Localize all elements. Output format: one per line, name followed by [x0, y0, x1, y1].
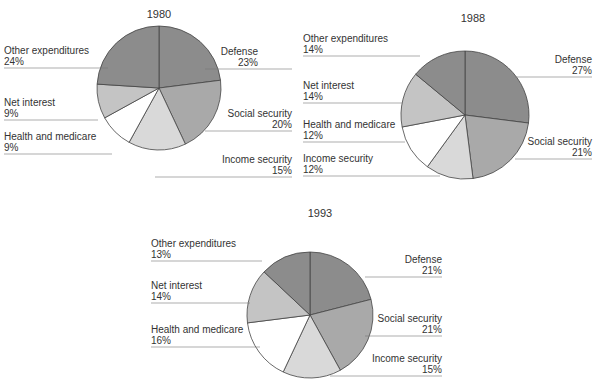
slice-value: 12% [303, 130, 323, 141]
slice-value: 14% [303, 91, 323, 102]
slice-label: Other expenditures [151, 238, 236, 249]
slice-value: 21% [422, 324, 442, 335]
slice-label: Defense [221, 46, 259, 57]
pie-slice [465, 115, 528, 178]
slice-value: 15% [422, 364, 442, 375]
slice-label: Social security [228, 108, 292, 119]
slice-label: Other expenditures [4, 45, 89, 56]
slice-value: 15% [272, 165, 292, 176]
slice-label: Social security [378, 313, 442, 324]
slice-label: Income security [303, 153, 373, 164]
slice-label: Income security [222, 154, 292, 165]
slice-value: 16% [151, 335, 171, 346]
slice-label: Social security [528, 136, 592, 147]
budget-pie-charts: 1980Defense23%Social security20%Income s… [0, 0, 600, 390]
slice-value: 24% [4, 56, 24, 67]
slice-label: Health and medicare [303, 119, 396, 130]
slice-value: 21% [572, 147, 592, 158]
slice-label: Net interest [151, 280, 202, 291]
slice-value: 9% [4, 142, 19, 153]
slice-value: 27% [572, 65, 592, 76]
pie-charts-svg: 1980Defense23%Social security20%Income s… [0, 0, 600, 390]
pie-slice [465, 51, 529, 123]
pie-chart-1980: 1980Defense23%Social security20%Income s… [4, 8, 292, 177]
slice-value: 20% [272, 119, 292, 130]
slice-value: 13% [151, 249, 171, 260]
slice-label: Health and medicare [151, 324, 244, 335]
pie-slice [97, 26, 159, 88]
chart-title: 1993 [308, 207, 332, 219]
slice-value: 21% [422, 265, 442, 276]
slice-value: 23% [238, 57, 258, 68]
pie-chart-1988: 1988Defense27%Social security21%Income s… [303, 12, 592, 179]
slice-label: Defense [555, 54, 593, 65]
slice-value: 14% [303, 44, 323, 55]
slice-label: Net interest [4, 97, 55, 108]
slice-value: 12% [303, 164, 323, 175]
chart-title: 1988 [461, 12, 485, 24]
pie-chart-1993: 1993Defense21%Social security21%Income s… [151, 207, 442, 378]
slice-label: Other expenditures [303, 33, 388, 44]
slice-label: Health and medicare [4, 131, 97, 142]
slice-label: Defense [405, 254, 443, 265]
slice-value: 9% [4, 108, 19, 119]
slice-label: Income security [372, 353, 442, 364]
chart-title: 1980 [147, 8, 171, 20]
slice-value: 14% [151, 291, 171, 302]
slice-label: Net interest [303, 80, 354, 91]
pie-slice [159, 26, 221, 88]
